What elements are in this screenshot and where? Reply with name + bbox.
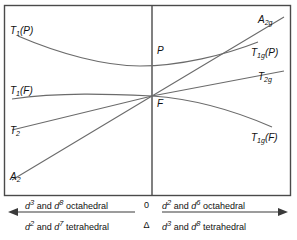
state-label-t1f: T1(F) bbox=[10, 86, 33, 96]
plot-frame bbox=[5, 6, 291, 196]
axis-zero-label: 0 bbox=[141, 201, 152, 210]
state-label-t1gf: T1g(F) bbox=[251, 133, 278, 143]
left-axis-caption-octahedral: d3 and d8 octahedral bbox=[25, 199, 108, 211]
tanabe-sugano-diagram: T1(P) T1(F) T2 A2 A2g T1g(P) T2g T1g(F) … bbox=[0, 0, 297, 240]
right-axis-caption-octahedral: d2 and d6 octahedral bbox=[162, 199, 245, 211]
state-label-t2g: T2g bbox=[258, 72, 272, 82]
axis-delta-label: Δ bbox=[141, 221, 152, 230]
right-axis-arrowhead bbox=[278, 208, 288, 216]
state-label-t1p: T1(P) bbox=[10, 26, 33, 36]
state-label-t1gp: T1g(P) bbox=[251, 48, 278, 58]
state-label-a2: A2 bbox=[10, 172, 21, 182]
state-label-a2g: A2g bbox=[258, 15, 272, 25]
right-axis-caption-tetrahedral: d3 and d8 tetrahedral bbox=[162, 220, 246, 232]
state-label-t2: T2 bbox=[10, 126, 20, 136]
left-axis-arrowhead bbox=[8, 208, 18, 216]
term-label-f: F bbox=[157, 99, 163, 109]
left-axis-caption-tetrahedral: d2 and d7 tetrahedral bbox=[25, 220, 109, 232]
term-label-p: P bbox=[157, 46, 164, 56]
